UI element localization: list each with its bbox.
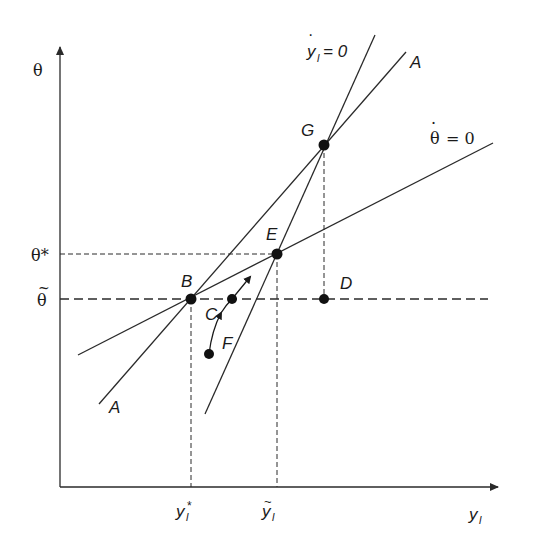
label-G: G [301,121,314,140]
label-C: C [205,305,218,324]
y-axis-label: θ [33,61,43,80]
theta-star-label: θ* [31,246,49,265]
label-D: D [340,274,352,293]
axes [60,47,498,487]
points [186,140,330,360]
curves [78,35,493,414]
guide-lines [60,145,488,487]
saddle-path-A-line [99,52,406,404]
A-label-top: A [409,53,421,72]
point-E [272,249,283,260]
point-B [186,294,197,305]
phase-diagram: B C D E F G · y l = 0 A A · θ = 0 θ y l … [0,0,547,546]
point-labels: B C D E F G [181,121,352,353]
label-B: B [181,272,192,291]
y-star-sup: * [187,499,192,513]
theta-dot-zero-suffix: = 0 [446,129,475,148]
trajectory-c-to-e [221,277,250,313]
y-star-label: y [175,502,186,521]
x-axis-label-sub: l [479,514,482,526]
point-F [204,349,214,359]
theta-tilde-label: θ [37,291,47,310]
y-dot-zero-dot: · [308,26,313,43]
y-dot-zero-sub: l [317,52,320,64]
y-dot-zero-line [205,35,375,414]
A-label-bottom: A [108,398,120,417]
y-dot-zero-suffix: = 0 [323,42,348,61]
x-axis-label: y [468,505,479,524]
y-tilde-label: y [261,502,272,521]
point-D [319,294,329,304]
theta-dot-zero-label: θ [430,129,440,148]
tick-labels: θ* ~ θ y l * ~ y l [31,246,275,523]
point-G [319,140,330,151]
label-E: E [266,225,278,244]
point-C [227,294,237,304]
label-F: F [222,334,234,353]
y-dot-zero-label: y [306,42,317,61]
axis-labels: θ y l [33,61,482,526]
theta-dot-zero-line [78,143,493,355]
y-tilde-sub: l [272,511,275,523]
